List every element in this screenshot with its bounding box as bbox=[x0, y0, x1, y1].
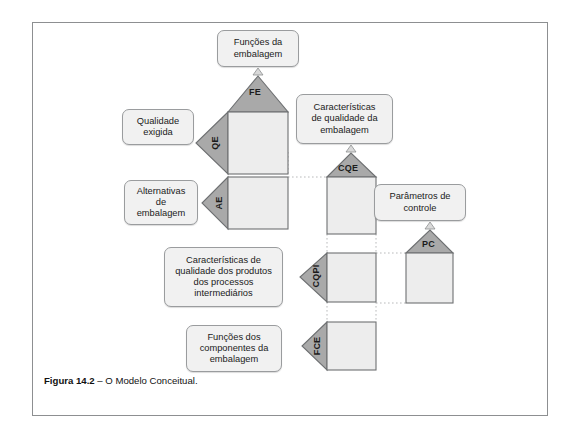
ae-line-2: de bbox=[156, 197, 166, 208]
label-box-funcoes-da-embalagem-text: Funções da embalagem bbox=[217, 30, 299, 67]
tag-qe-text: QE bbox=[210, 136, 220, 149]
tag-fce-text: FCE bbox=[312, 337, 322, 356]
arrowhead-fe-box bbox=[253, 68, 263, 75]
cqpi-line-1: Características de bbox=[186, 255, 261, 266]
fe-line-1: Funções da bbox=[234, 37, 283, 48]
tag-pc: PC bbox=[422, 239, 435, 249]
tag-cqpi: CQPI bbox=[311, 265, 321, 288]
label-box-qualidade-exigida[interactable]: Qualidade exigida bbox=[122, 109, 194, 145]
qe-line-1: Qualidade bbox=[137, 116, 179, 127]
ae-line-3: embalagem bbox=[137, 208, 186, 219]
cqpi-line-3: dos processos bbox=[194, 277, 254, 288]
figure-caption-text: O Modelo Conceitual. bbox=[105, 375, 197, 386]
cqe-line-3: embalagem bbox=[320, 125, 369, 136]
figure-caption-dash: – bbox=[95, 375, 106, 386]
figure-caption-label: Figura 14.2 bbox=[44, 375, 95, 386]
house-4-body bbox=[406, 253, 453, 303]
tag-qe: QE bbox=[210, 136, 220, 149]
house-1[interactable] bbox=[196, 76, 288, 174]
tag-cqe-text: CQE bbox=[338, 163, 358, 173]
arrowhead-cqe-box bbox=[346, 145, 356, 152]
label-box-caracteristicas-qualidade-embalagem[interactable]: Características de qualidade da embalage… bbox=[296, 94, 393, 144]
cqe-line-2: de qualidade da bbox=[311, 113, 377, 124]
tag-ae-text: AE bbox=[214, 197, 224, 210]
ae-line-1: Alternativas bbox=[137, 186, 186, 197]
cqe-line-1: Características bbox=[314, 102, 376, 113]
house-3-body bbox=[327, 177, 376, 234]
label-box-alternativas-de-embalagem[interactable]: Alternativas de embalagem bbox=[124, 180, 198, 225]
tag-pc-text: PC bbox=[422, 239, 435, 249]
label-box-parametros-de-controle[interactable]: Parâmetros de controle bbox=[374, 184, 466, 221]
house-5-body bbox=[327, 253, 376, 302]
figure-caption: Figura 14.2 – O Modelo Conceitual. bbox=[44, 375, 198, 386]
house-6-body bbox=[327, 322, 376, 370]
tag-fce: FCE bbox=[312, 337, 322, 356]
pc-line-1: Parâmetros de bbox=[390, 191, 451, 202]
label-box-caracteristicas-qualidade-produtos[interactable]: Características de qualidade dos produto… bbox=[164, 247, 283, 307]
fce-line-2: componentes da bbox=[200, 343, 269, 354]
fce-line-3: embalagem bbox=[210, 354, 259, 365]
tag-fe: FE bbox=[249, 87, 261, 97]
fe-line-2: embalagem bbox=[234, 49, 283, 60]
cqpi-line-2: qualidade dos produtos bbox=[175, 266, 272, 277]
tag-cqpi-text: CQPI bbox=[311, 265, 321, 288]
tag-ae: AE bbox=[214, 197, 224, 210]
cqpi-line-4: intermediários bbox=[194, 288, 252, 299]
arrowhead-pc-box bbox=[425, 222, 435, 229]
house-2-body bbox=[228, 177, 288, 229]
label-box-funcoes-componentes-embalagem[interactable]: Funções dos componentes da embalagem bbox=[186, 325, 282, 372]
fce-line-1: Funções dos bbox=[207, 332, 260, 343]
house-1-body bbox=[228, 112, 288, 174]
tag-fe-text: FE bbox=[249, 87, 261, 97]
qe-line-2: exigida bbox=[143, 127, 172, 138]
pc-line-2: controle bbox=[403, 203, 436, 214]
tag-cqe: CQE bbox=[338, 163, 358, 173]
